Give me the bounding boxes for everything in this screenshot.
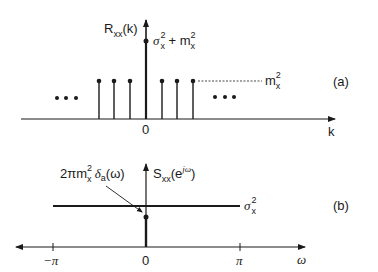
panel-b-tag: (b) <box>333 198 349 213</box>
omega-axis-label: ω <box>297 252 306 267</box>
origin-label-a: 0 <box>142 122 149 137</box>
r-axis-label: Rxx(k) <box>104 21 138 39</box>
origin-label-b: 0 <box>142 253 149 268</box>
pi-label: π <box>236 253 243 268</box>
panel-a-autocorrelation: Rxx(k) σ2x + m2x m2x 0 k (a) <box>21 20 349 139</box>
stem-k0-dot <box>144 39 149 44</box>
ellipsis-left <box>55 96 78 100</box>
panel-a-tag: (a) <box>333 74 349 89</box>
s-axis-label: Sxx(ejω) <box>153 164 195 184</box>
neg-pi-label: −π <box>43 253 59 268</box>
sigma2-level-label: σ2x <box>244 195 256 216</box>
impulse-dot <box>144 215 149 220</box>
peak-value-label: σ2x + m2x <box>153 30 196 51</box>
m2-level-label: m2x <box>265 70 281 91</box>
k-axis-label: k <box>328 124 335 139</box>
ellipsis-right <box>213 95 236 99</box>
impulse-label: 2πm2x δa(ω) <box>60 163 125 184</box>
impulse-pointer-arrow <box>106 186 142 212</box>
diagram-canvas: Rxx(k) σ2x + m2x m2x 0 k (a) 2πm2x δa(ω)… <box>0 0 378 272</box>
panel-b-power-spectrum: 2πm2x δa(ω) Sxx(ejω) σ2x −π 0 π ω (b) <box>16 163 349 268</box>
